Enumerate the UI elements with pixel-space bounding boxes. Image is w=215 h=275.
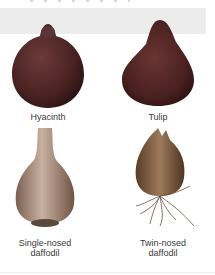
tulip-label: Tulip (128, 112, 188, 122)
single-nosed-daffodil-bulb-image (12, 126, 78, 230)
single-nosed-daffodil-label-line2: daffodil (10, 248, 80, 258)
twin-nosed-daffodil-label: Twin-nosed daffodil (128, 238, 198, 258)
single-nosed-daffodil-label-line1: Single-nosed (10, 238, 80, 248)
twin-nosed-daffodil-label-line2: daffodil (128, 248, 198, 258)
hyacinth-label: Hyacinth (18, 112, 78, 122)
single-nosed-daffodil-label: Single-nosed daffodil (10, 238, 80, 258)
bottom-divider (0, 272, 215, 273)
hyacinth-bulb-image (8, 20, 88, 112)
tulip-bulb-image (118, 18, 198, 110)
twin-nosed-daffodil-bulb-image (130, 128, 210, 228)
cropped-text-remnant (30, 0, 130, 2)
twin-nosed-daffodil-label-line1: Twin-nosed (128, 238, 198, 248)
top-strip (0, 0, 215, 6)
